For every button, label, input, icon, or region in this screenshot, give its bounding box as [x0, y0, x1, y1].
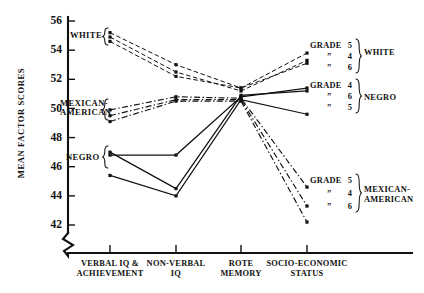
y-tick-label: 52 — [51, 72, 63, 84]
y-tick-label: 56 — [51, 14, 63, 26]
data-point — [305, 86, 308, 89]
legend-ditto-mark: ˮ — [327, 63, 331, 72]
data-point — [174, 70, 177, 73]
data-point — [174, 194, 177, 197]
series-line-white-grade-5 — [110, 33, 307, 88]
series-line-mexican-american-grade-6 — [110, 101, 307, 222]
x-tick-label: NON-VERBAL — [147, 259, 206, 268]
data-point — [239, 86, 242, 89]
data-point — [108, 174, 111, 177]
legend-grade-number: 6 — [348, 202, 352, 211]
data-point — [174, 153, 177, 156]
data-point — [305, 51, 308, 54]
series-line-negro-grade-4 — [110, 88, 307, 155]
legend-group-label: AMERICAN — [364, 195, 413, 204]
legend-grade-number: 4 — [348, 81, 353, 90]
x-tick-label: IQ — [171, 269, 182, 278]
data-point — [305, 220, 308, 223]
x-tick-label: MEMORY — [220, 269, 261, 278]
data-point — [108, 40, 111, 43]
data-point — [239, 94, 242, 97]
legend-grade-word: GRADE — [310, 176, 342, 185]
legend-grade-number: 6 — [348, 63, 352, 72]
chart-legend: GRADE5ˮ4ˮ6WHITEGRADE4ˮ6ˮ5NEGROGRADE5ˮ4ˮ6… — [310, 39, 413, 212]
chart-series — [110, 33, 307, 222]
legend-ditto-mark: ˮ — [327, 52, 331, 61]
legend-ditto-mark: ˮ — [327, 103, 331, 112]
x-tick-label: ROTE — [229, 259, 254, 268]
data-point — [108, 151, 111, 154]
left-label-white: WHITE — [70, 30, 102, 40]
y-axis-title: MEAN FACTOR SCORES — [16, 68, 26, 178]
x-tick-label: VERBAL IQ & — [81, 259, 139, 268]
data-point — [174, 95, 177, 98]
y-tick-label: 44 — [51, 189, 63, 201]
legend-grade-number: 5 — [348, 176, 352, 185]
data-point — [108, 35, 111, 38]
legend-grade-number: 4 — [348, 52, 353, 61]
data-point — [108, 31, 111, 34]
data-point — [305, 113, 308, 116]
y-axis-ticks: 4244464850525456MEAN FACTOR SCORES — [16, 14, 75, 230]
left-brace-white — [103, 28, 108, 45]
legend-grade-number: 4 — [348, 189, 353, 198]
legend-group-label: NEGRO — [364, 93, 396, 102]
series-line-mexican-american-grade-4 — [110, 100, 307, 206]
data-point — [305, 62, 308, 65]
data-point — [305, 59, 308, 62]
chart-figure: 4244464850525456MEAN FACTOR SCORES VERBA… — [0, 0, 424, 293]
y-tick-label: 46 — [51, 160, 63, 172]
series-line-negro-grade-6 — [110, 91, 307, 189]
legend-ditto-mark: ˮ — [327, 202, 331, 211]
legend-grade-word: GRADE — [310, 41, 342, 50]
legend-ditto-mark: ˮ — [327, 189, 331, 198]
series-line-white-grade-4 — [110, 37, 307, 91]
series-line-negro-grade-5 — [110, 100, 307, 196]
data-point — [305, 186, 308, 189]
data-point — [239, 100, 242, 103]
data-point — [174, 187, 177, 190]
x-tick-label: ACHIEVEMENT — [77, 269, 144, 278]
legend-grade-word: GRADE — [310, 81, 342, 90]
legend-grade-number: 6 — [348, 92, 352, 101]
y-tick-label: 48 — [51, 131, 63, 143]
y-tick-label: 42 — [51, 218, 63, 230]
data-point — [174, 63, 177, 66]
y-tick-label: 54 — [51, 43, 63, 55]
x-tick-label: STATUS — [291, 269, 324, 278]
left-brace-negro — [103, 146, 108, 168]
data-point — [305, 204, 308, 207]
mean-factor-scores-line-chart: 4244464850525456MEAN FACTOR SCORES VERBA… — [0, 0, 424, 293]
legend-group-label: MEXICAN- — [364, 185, 410, 194]
x-axis-ticks: VERBAL IQ &ACHIEVEMENTNON-VERBALIQROTEME… — [77, 245, 348, 278]
legend-brace-mexican-american — [356, 174, 361, 212]
left-label-negro: NEGRO — [66, 152, 100, 162]
legend-brace-white — [356, 39, 361, 73]
data-point — [305, 89, 308, 92]
legend-group-label: WHITE — [364, 48, 395, 57]
data-point — [174, 100, 177, 103]
legend-brace-negro — [356, 79, 361, 113]
legend-grade-number: 5 — [348, 41, 352, 50]
legend-grade-number: 5 — [348, 103, 352, 112]
chart-datapoints — [108, 31, 308, 224]
data-point — [174, 75, 177, 78]
data-point — [108, 120, 111, 123]
data-point — [239, 89, 242, 92]
data-point — [108, 153, 111, 156]
legend-ditto-mark: ˮ — [327, 92, 331, 101]
x-tick-label: SOCIO-ECONOMIC — [266, 259, 347, 268]
